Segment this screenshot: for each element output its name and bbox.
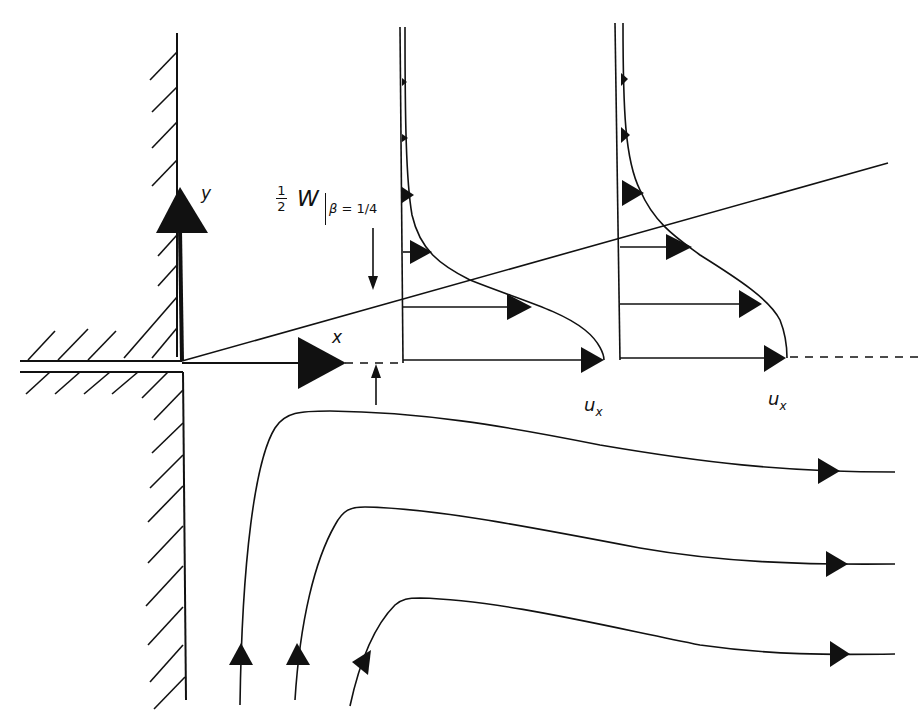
streamline-2 xyxy=(295,507,895,700)
flow-diagram xyxy=(0,0,922,726)
profile-2-label: ux xyxy=(768,388,787,413)
lower-vertical-wall xyxy=(183,372,186,700)
boundary-layer-edge xyxy=(182,163,888,361)
y-axis xyxy=(180,230,182,361)
profile-2-curve xyxy=(623,23,787,358)
profile-1-label: ux xyxy=(584,394,603,419)
y-axis-label: y xyxy=(201,183,211,203)
half-fraction: 1 2 xyxy=(276,184,287,213)
profile-1-curve xyxy=(405,27,604,360)
streamline-3 xyxy=(350,598,895,706)
x-axis-label: x xyxy=(332,327,342,347)
boundary-symbol-W: W xyxy=(297,186,319,211)
boundary-subscript: β = 1/4 xyxy=(325,193,377,225)
streamline-1 xyxy=(240,411,895,705)
wall-hatching xyxy=(26,52,185,709)
profile-2-axis xyxy=(615,23,620,360)
